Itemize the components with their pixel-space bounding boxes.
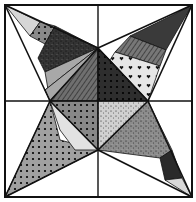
quilt-block — [0, 0, 196, 202]
